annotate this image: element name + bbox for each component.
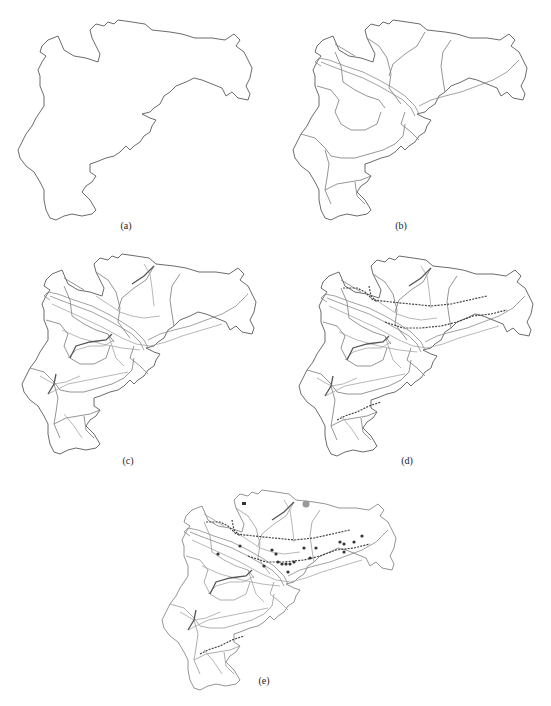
point-markers [216, 534, 363, 573]
square-marker [242, 502, 246, 505]
panel-b: (b) [275, 0, 551, 240]
panel-c: (c) [0, 240, 275, 480]
caption-e: (e) [244, 675, 284, 686]
caption-d: (d) [387, 455, 427, 466]
panel-d: (d) [275, 240, 551, 480]
boundary-map [0, 0, 275, 240]
road-map [0, 240, 275, 480]
railway-map [275, 240, 551, 480]
panel-e: (e) [140, 470, 420, 706]
caption-c: (c) [108, 455, 148, 466]
feature-map [140, 470, 420, 706]
caption-b: (b) [381, 220, 421, 231]
caption-a: (a) [106, 220, 146, 231]
district-map [275, 0, 551, 240]
panel-a: (a) [0, 0, 275, 240]
highlight-circle-marker [303, 501, 310, 508]
